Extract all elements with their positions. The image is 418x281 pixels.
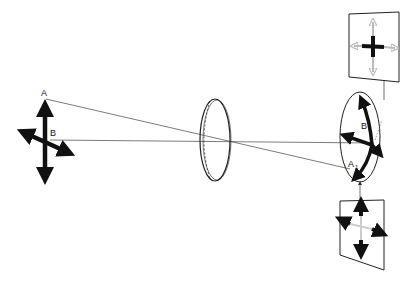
image-arrow-lower <box>356 145 372 177</box>
screen-bottom <box>340 200 384 270</box>
ray-a <box>46 99 350 169</box>
ray-b <box>50 140 374 143</box>
lens-back-rim <box>203 100 231 180</box>
label-b1: B <box>361 121 367 131</box>
light-rays <box>46 99 374 169</box>
image-arrow-left <box>346 136 372 145</box>
image-dashed-guide <box>375 120 382 140</box>
object-arrow-right <box>45 142 67 152</box>
object-arrow-left <box>25 133 45 142</box>
label-a1: A <box>348 159 354 169</box>
label-a: A <box>41 88 47 98</box>
optics-diagram: A B B 1 A 1 <box>0 0 418 281</box>
screen-top <box>349 12 399 82</box>
label-b: B <box>50 128 56 138</box>
label-a1-sub: 1 <box>355 164 359 170</box>
lens <box>200 99 231 181</box>
object-cross <box>25 108 67 176</box>
image-arrow-right <box>372 145 379 153</box>
